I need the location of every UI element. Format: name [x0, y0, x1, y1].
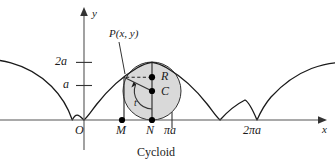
point-label-N: N [146, 124, 154, 136]
y-axis-label: y [92, 8, 97, 19]
cycloid-cusp-2pia [220, 100, 257, 120]
cycloid-arch-right [257, 63, 335, 120]
figure-caption: Cycloid [137, 146, 175, 158]
origin-label: O [75, 124, 84, 136]
angle-label-t: t [134, 98, 137, 108]
point-C [149, 88, 155, 94]
cycloid-cusp-left [72, 115, 84, 120]
y-tick-label-a: a [63, 78, 69, 90]
leader-line-P [119, 42, 125, 74]
y-axis-arrowhead [80, 7, 88, 16]
y-tick-label-2a: 2a [55, 55, 67, 67]
x-tick-label-pia: πa [164, 124, 176, 136]
x-tick-label-2pia: 2πa [243, 124, 261, 136]
point-label-P: P(x, y) [109, 28, 138, 39]
cycloid-arch-left [0, 60, 72, 120]
point-label-M: M [116, 124, 126, 136]
point-R [149, 74, 155, 80]
point-label-R: R [161, 70, 168, 82]
x-axis-label: x [322, 124, 327, 135]
cycloid-figure [0, 0, 335, 166]
point-label-C: C [161, 85, 169, 97]
